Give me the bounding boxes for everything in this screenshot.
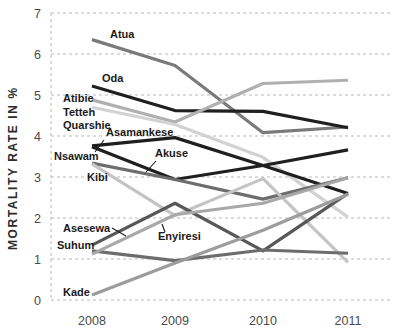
line-chart: 01234567 2008200920102011 MORTALITY RATE… <box>0 0 405 336</box>
series-label-quarshie: Quarshie <box>63 119 111 131</box>
y-tick-label: 7 <box>34 7 41 21</box>
series-label-suhum: Suhum <box>57 239 94 251</box>
x-tick-label: 2008 <box>78 314 106 328</box>
y-tick-label: 5 <box>34 89 41 103</box>
y-tick-label: 2 <box>34 212 41 226</box>
y-tick-label: 6 <box>34 48 41 62</box>
series-label-atua: Atua <box>110 28 135 40</box>
y-tick-label: 0 <box>34 294 41 308</box>
x-tick-label: 2011 <box>335 314 362 328</box>
series-label-asesewa: Asesewa <box>63 222 111 234</box>
y-tick-label: 1 <box>34 253 41 267</box>
chart-background <box>0 0 405 336</box>
series-label-kibi: Kibi <box>87 171 108 183</box>
y-tick-label: 3 <box>34 171 41 185</box>
series-label-oda: Oda <box>102 72 124 84</box>
x-tick-label: 2009 <box>161 314 189 328</box>
chart-canvas: 01234567 2008200920102011 MORTALITY RATE… <box>0 0 405 336</box>
series-label-enyiresi: Enyiresi <box>158 230 201 242</box>
series-label-tetteh: Tetteh <box>63 106 95 118</box>
y-tick-label: 4 <box>34 130 41 144</box>
series-label-atibie: Atibie <box>63 92 94 104</box>
y-axis-title: MORTALITY RATE IN % <box>6 86 20 250</box>
series-label-kade: Kade <box>63 286 90 298</box>
series-label-asamankese: Asamankese <box>106 126 173 138</box>
x-tick-label: 2010 <box>249 314 277 328</box>
series-label-nsawam: Nsawam <box>54 150 99 162</box>
series-label-akuse: Akuse <box>155 147 188 159</box>
